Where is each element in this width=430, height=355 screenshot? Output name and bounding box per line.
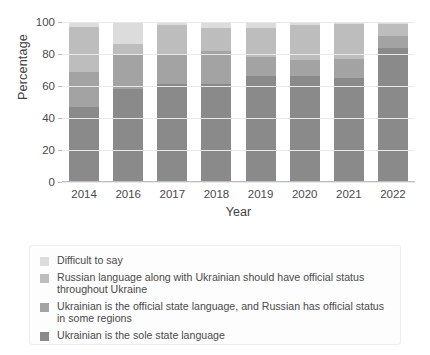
bar-segment[interactable] <box>201 84 231 182</box>
x-axis-label: Year <box>62 205 415 219</box>
gridline <box>62 22 415 23</box>
x-tick-label: 2020 <box>292 188 318 200</box>
legend-label: Ukrainian is the official state language… <box>57 300 390 325</box>
y-tick-mark <box>58 182 62 183</box>
x-tick-label: 2021 <box>336 188 362 200</box>
x-tick-label: 2014 <box>71 188 97 200</box>
legend-swatch <box>40 274 49 283</box>
bar-segment[interactable] <box>157 25 187 54</box>
x-tick-label: 2019 <box>248 188 274 200</box>
y-tick-label: 20 <box>42 144 55 156</box>
chart-legend: Difficult to sayRussian language along w… <box>29 245 401 345</box>
x-tick-label: 2022 <box>380 188 406 200</box>
bar-segment[interactable] <box>157 54 187 84</box>
legend-label: Ukrainian is the sole state language <box>57 329 225 342</box>
y-tick-mark <box>58 118 62 119</box>
legend-swatch <box>40 332 49 341</box>
bar-segment[interactable] <box>69 27 99 72</box>
bar-segment[interactable] <box>378 48 408 182</box>
y-axis-label: Percentage <box>16 0 30 137</box>
bar-segment[interactable] <box>113 22 143 44</box>
y-tick-label: 40 <box>42 112 55 124</box>
plot-area: Percentage 20142016201720182019202020212… <box>0 0 430 232</box>
x-tick-label: 2016 <box>115 188 141 200</box>
bar-segment[interactable] <box>113 44 143 54</box>
y-tick-mark <box>58 54 62 55</box>
bar-segment[interactable] <box>246 76 276 182</box>
gridline <box>62 86 415 87</box>
bar-segment[interactable] <box>378 36 408 47</box>
bar-segment[interactable] <box>246 28 276 57</box>
bar-group: 20142016201720182019202020212022 <box>62 22 415 182</box>
bar-segment[interactable] <box>334 78 364 182</box>
bar-segment[interactable] <box>334 59 364 78</box>
y-tick-label: 0 <box>49 176 55 188</box>
gridline <box>62 54 415 55</box>
y-tick-label: 100 <box>36 16 55 28</box>
bar-segment[interactable] <box>69 72 99 107</box>
bar-segment[interactable] <box>290 25 320 60</box>
legend-swatch <box>40 303 49 312</box>
legend-label: Russian language along with Ukrainian sh… <box>57 271 390 296</box>
bar-column[interactable]: 2022 <box>378 22 408 182</box>
bar-column[interactable]: 2014 <box>69 22 99 182</box>
gridline <box>62 118 415 119</box>
y-tick-label: 80 <box>42 48 55 60</box>
bar-column[interactable]: 2017 <box>157 22 187 182</box>
bar-segment[interactable] <box>290 76 320 182</box>
legend-item[interactable]: Difficult to say <box>40 254 390 267</box>
x-tick-label: 2017 <box>160 188 186 200</box>
bar-segment[interactable] <box>201 51 231 85</box>
legend-label: Difficult to say <box>57 254 123 267</box>
bar-segment[interactable] <box>201 28 231 50</box>
y-tick-mark <box>58 22 62 23</box>
y-tick-label: 60 <box>42 80 55 92</box>
bar-segment[interactable] <box>246 57 276 76</box>
bar-segment[interactable] <box>157 84 187 182</box>
legend-item[interactable]: Russian language along with Ukrainian sh… <box>40 271 390 296</box>
bar-segment[interactable] <box>290 60 320 76</box>
bar-segment[interactable] <box>113 89 143 182</box>
chart-axes: 20142016201720182019202020212022 0204060… <box>62 22 415 182</box>
gridline <box>62 150 415 151</box>
bar-column[interactable]: 2018 <box>201 22 231 182</box>
chart-root: Percentage 20142016201720182019202020212… <box>0 0 430 355</box>
legend-item[interactable]: Ukrainian is the official state language… <box>40 300 390 325</box>
bar-column[interactable]: 2021 <box>334 22 364 182</box>
y-tick-mark <box>58 86 62 87</box>
legend-item[interactable]: Ukrainian is the sole state language <box>40 329 390 342</box>
bar-column[interactable]: 2019 <box>246 22 276 182</box>
bar-segment[interactable] <box>113 54 143 89</box>
x-tick-label: 2018 <box>204 188 230 200</box>
bar-column[interactable]: 2020 <box>290 22 320 182</box>
bar-column[interactable]: 2016 <box>113 22 143 182</box>
bar-segment[interactable] <box>378 24 408 37</box>
y-tick-mark <box>58 150 62 151</box>
gridline <box>62 182 415 183</box>
legend-swatch <box>40 257 49 266</box>
